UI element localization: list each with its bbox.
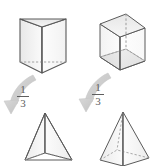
fraction-right-numerator: 1 xyxy=(88,82,108,93)
square-pyramid xyxy=(100,112,149,166)
triangular-prism-right-face xyxy=(42,19,66,73)
fraction-right-denominator: 3 xyxy=(88,96,108,107)
square-pyramid-right-face xyxy=(123,112,149,166)
fraction-left-numerator: 1 xyxy=(13,84,33,95)
geometry-diagram: 1 3 1 3 xyxy=(0,0,156,166)
triangular-prism-left-face xyxy=(20,19,42,73)
triangular-prism xyxy=(20,19,66,73)
triangular-pyramid xyxy=(25,113,72,160)
rectangular-prism xyxy=(100,14,145,70)
fraction-label-right: 1 3 xyxy=(88,82,108,107)
fraction-left-denominator: 3 xyxy=(13,98,33,109)
square-pyramid-left-face xyxy=(100,112,123,166)
fraction-label-left: 1 3 xyxy=(13,84,33,109)
